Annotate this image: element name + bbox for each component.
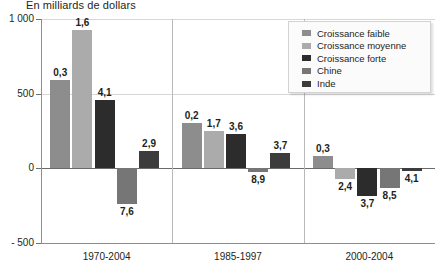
bar [182,123,202,169]
legend-item[interactable]: Inde [289,77,430,90]
bar [226,134,246,168]
legend-item-label: Croissance moyenne [317,41,406,51]
legend-item-label: Chine [317,66,342,76]
bar-value-label: 3,7 [261,141,299,151]
bar-value-label: 3,6 [217,122,255,132]
legend-item-label: Croissance forte [317,54,386,64]
y-axis-tick [36,243,41,244]
bar [313,156,333,169]
bar-value-label: 7,6 [108,207,146,217]
legend-swatch-icon [302,68,311,74]
bar [95,100,115,169]
bar [335,168,355,178]
legend-item[interactable]: Croissance moyenne [289,40,430,53]
x-axis-category-label: 2000-2004 [304,252,435,262]
legend-swatch-icon [302,43,311,49]
legend-item-label: Croissance faible [317,29,390,39]
x-axis-category-label: 1985-1997 [172,252,303,262]
legend-swatch-icon [302,55,311,61]
bar-value-label: 4,1 [393,174,431,184]
bar-value-label: 8,9 [239,175,277,185]
legend-item[interactable]: Croissance forte [289,52,430,65]
y-axis-line [41,19,42,243]
chart-title: En milliards de dollars [26,0,136,11]
bar [204,131,224,168]
bar-chart: En milliards de dollars 1 0005000- 500 0… [0,0,440,262]
bar [50,80,70,168]
bar [248,168,268,172]
x-axis-category-label: 1970-2004 [41,252,172,262]
bar-value-label: 4,1 [86,88,124,98]
bar [270,153,290,169]
legend-swatch-icon [302,81,311,87]
bar [402,168,422,170]
bar-value-label: 0,3 [304,144,342,154]
y-axis-label: - 500 [11,238,34,248]
y-axis-label: 500 [17,89,34,99]
bar-value-label: 8,5 [371,191,409,201]
y-axis-label: 1 000 [9,14,34,24]
bar-value-label: 2,9 [130,139,168,149]
legend-item[interactable]: Chine [289,65,430,78]
bar [139,151,159,168]
x-axis-line [41,243,435,244]
legend-item[interactable]: Croissance faible [289,27,430,40]
bar [117,168,137,204]
legend-item-label: Inde [317,79,336,89]
y-axis-label: 0 [28,163,34,173]
bar-value-label: 1,6 [63,18,101,28]
bar [72,30,92,168]
legend-swatch-icon [302,30,311,36]
group-separator [172,19,173,243]
chart-legend: Croissance faibleCroissance moyenneCrois… [288,21,431,93]
